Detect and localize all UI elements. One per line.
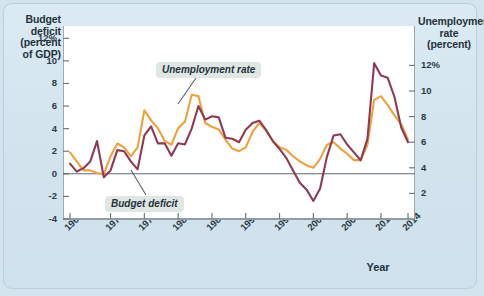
left-tick-label-6: 6 (27, 100, 57, 111)
plot-area (63, 26, 415, 220)
callout-budget-deficit: Budget deficit (105, 196, 184, 212)
series-line-budget-deficit (70, 63, 408, 201)
left-tick-label-2: 2 (27, 145, 57, 156)
right-tick-label-10: 10 (421, 85, 451, 96)
left-axis-ticks (63, 38, 69, 219)
right-tick-label-2: 2 (421, 187, 451, 198)
left-tick-label-4: 4 (27, 123, 57, 134)
right-tick-label-4: 4 (421, 162, 451, 173)
figure-canvas: Budget deficit (percent of GDP) Unemploy… (0, 0, 484, 296)
right-axis-title-line-1: Unemployment (418, 16, 480, 28)
left-tick-label-10: 10 (27, 55, 57, 66)
left-axis-title-line-1: Budget (2, 14, 61, 26)
left-tick-label-8: 8 (27, 77, 57, 88)
series-line-unemployment-rate (70, 95, 408, 174)
right-tick-label-12pct: 12% (421, 59, 451, 70)
left-tick-label-neg4: -4 (27, 213, 57, 224)
right-axis-title-line-3: (percent) (418, 39, 480, 51)
callout-unemployment-rate: Unemployment rate (156, 62, 261, 78)
right-axis-title: Unemployment rate (percent) (418, 16, 480, 51)
bottom-axis-ticks (70, 213, 408, 219)
chart-svg (63, 26, 415, 220)
x-axis-title: Year (348, 262, 408, 274)
left-tick-label-neg2: -2 (27, 190, 57, 201)
left-tick-label-0: 0 (27, 168, 57, 179)
right-tick-label-8: 8 (421, 111, 451, 122)
right-tick-label-6: 6 (421, 136, 451, 147)
left-tick-label-12pct: 12% (27, 32, 57, 43)
